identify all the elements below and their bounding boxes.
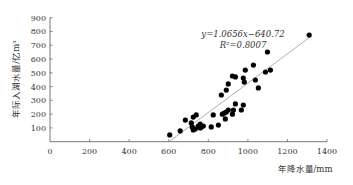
data-point (231, 107, 236, 112)
x-tick-label: 200 (82, 147, 97, 156)
data-point (219, 92, 224, 97)
axes (50, 18, 327, 142)
data-point (224, 87, 229, 92)
x-tick-label: 1000 (238, 147, 258, 156)
data-point (226, 107, 231, 112)
data-point (241, 102, 246, 107)
x-tick-label: 800 (201, 147, 216, 156)
y-tick-label: 600 (31, 55, 46, 64)
x-tick-label: 1200 (277, 147, 297, 156)
data-point (183, 117, 188, 122)
ticks: 0200400600800100012001400100200300400500… (31, 14, 337, 156)
r-squared-annotation: R²=0.8007 (219, 40, 267, 50)
data-point (209, 124, 214, 129)
data-point (239, 107, 244, 112)
data-point (268, 67, 273, 72)
y-tick-label: 200 (31, 110, 46, 119)
data-point (256, 85, 261, 90)
data-point (307, 32, 312, 37)
data-point (233, 74, 238, 79)
data-point (194, 112, 199, 117)
data-point (226, 81, 231, 86)
x-axis-title: 年降水量/mm (278, 164, 333, 174)
y-tick-label: 400 (31, 83, 46, 92)
x-tick-label: 0 (47, 147, 52, 156)
data-point (211, 112, 216, 117)
data-point (243, 67, 248, 72)
y-tick-label: 700 (31, 41, 46, 50)
y-tick-label: 800 (31, 27, 46, 36)
x-tick-label: 600 (161, 147, 176, 156)
data-point (265, 49, 270, 54)
data-point (191, 127, 196, 132)
y-tick-label: 100 (31, 124, 46, 133)
scatter-chart: 0200400600800100012001400100200300400500… (0, 0, 353, 185)
equation-annotation: y=1.0656x−640.72 (200, 29, 284, 39)
data-point (223, 116, 228, 121)
data-point (251, 62, 256, 67)
data-point (242, 79, 247, 84)
y-axis-title: 年际入湖水量/亿m³ (11, 40, 21, 117)
data-point (233, 101, 238, 106)
data-point (167, 132, 172, 137)
y-tick-label: 500 (31, 69, 46, 78)
y-tick-label: 300 (31, 96, 46, 105)
y-tick-label: 900 (31, 14, 46, 23)
data-point (178, 128, 183, 133)
x-tick-label: 400 (122, 147, 137, 156)
x-tick-label: 1400 (317, 147, 337, 156)
data-point (263, 69, 268, 74)
data-point (253, 77, 258, 82)
data-point (198, 125, 203, 130)
data-point (216, 122, 221, 127)
